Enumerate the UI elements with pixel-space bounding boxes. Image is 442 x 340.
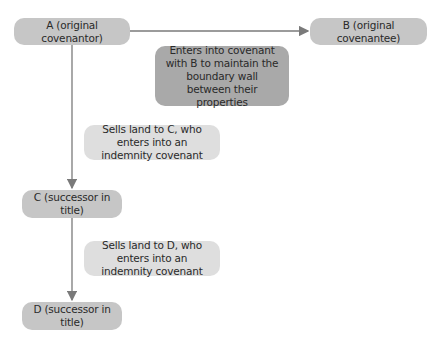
sale-to-d-note: Sells land to D, who enters into an inde…: [84, 241, 220, 276]
node-b-original-covenantee: B (original covenantee): [310, 18, 427, 45]
node-a-original-covenantor: A (original covenantor): [14, 18, 130, 45]
covenant-note: Enters into covenant with B to maintain …: [155, 46, 289, 106]
node-c-successor-in-title: C (successor in title): [22, 190, 122, 218]
sale-to-c-note: Sells land to C, who enters into an inde…: [84, 125, 220, 160]
node-d-successor-in-title: D (successor in title): [22, 302, 122, 330]
